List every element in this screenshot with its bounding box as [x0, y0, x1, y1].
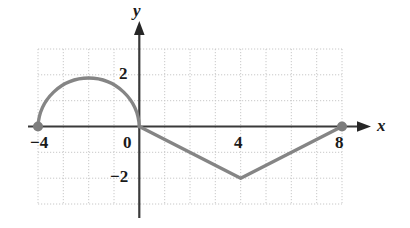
x-tick-label-neg4: −4 [30, 134, 48, 151]
y-tick-label-2: 2 [119, 65, 128, 82]
origin-label: 0 [123, 134, 132, 151]
x-tick-label-4: 4 [234, 134, 243, 151]
y-axis-label: y [133, 2, 141, 19]
endpoint-dot-right [337, 122, 347, 132]
x-axis-label: x [377, 117, 386, 134]
y-tick-label-neg2: −2 [110, 168, 128, 185]
x-axis [28, 121, 371, 132]
x-tick-label-8: 8 [335, 134, 344, 151]
endpoint-dot-left [33, 122, 43, 132]
graph-figure: y x −4 0 4 8 2 −2 [0, 0, 410, 228]
plot-canvas [0, 0, 410, 228]
